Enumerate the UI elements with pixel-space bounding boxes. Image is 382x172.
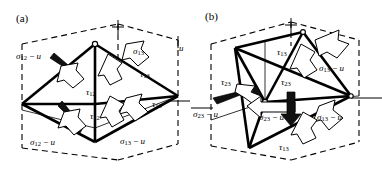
label-u-upper-right: u: [179, 44, 184, 53]
label-tau-13-upper: τ13: [277, 48, 287, 58]
apex-node: [92, 41, 97, 46]
label-tau-13-lower: τ13: [152, 100, 162, 110]
panel-a-tag: (a): [16, 12, 28, 24]
arrow-sigma13-upper: [315, 30, 349, 58]
panel-a-drawing: [0, 0, 191, 172]
arrow-tau12-lower: [58, 109, 86, 135]
label-sigma-13-minus-u-upper-right: σ13 − u: [319, 64, 344, 74]
node-right: [349, 94, 353, 98]
arrow-tau12-upper: [57, 63, 84, 88]
label-sigma-13-upper-right: σ13: [133, 47, 144, 57]
label-tau-12-upper: τ12: [86, 88, 96, 98]
label-sigma-23-minus-u-center: σ23 − u: [259, 113, 284, 123]
panel-b-tag: (b): [205, 10, 218, 22]
figure-root: (a) σ12 − u σ13 u τ13 τ12 τ12 τ13 σ12 − …: [0, 0, 382, 172]
label-tau-12-lower: τ12: [90, 112, 100, 122]
label-tau-23-center: τ23: [281, 78, 291, 88]
label-sigma-13-minus-u-right: σ13 − u: [317, 113, 342, 123]
label-tau-23-left: τ23: [221, 78, 231, 88]
label-sigma-13-minus-u-lower-right: σ13 − u: [120, 137, 145, 147]
octahedron-edges: [22, 44, 178, 142]
label-tau-13-upper: τ13: [140, 70, 150, 80]
panel-b: (b) τ13 σ13 − u τ23 τ23 σ23 − u σ23 − u …: [191, 0, 382, 172]
label-tau-13-lower: τ13: [279, 143, 289, 153]
label-sigma-12-minus-u-lower-left: σ12 − u: [30, 138, 55, 148]
panel-a: (a) σ12 − u σ13 u τ13 τ12 τ12 τ13 σ12 − …: [0, 0, 191, 172]
node-top: [301, 30, 306, 35]
label-sigma-12-minus-u-upper-left: σ12 − u: [16, 52, 41, 62]
label-sigma-23-minus-u-left: σ23 − u: [193, 110, 218, 120]
